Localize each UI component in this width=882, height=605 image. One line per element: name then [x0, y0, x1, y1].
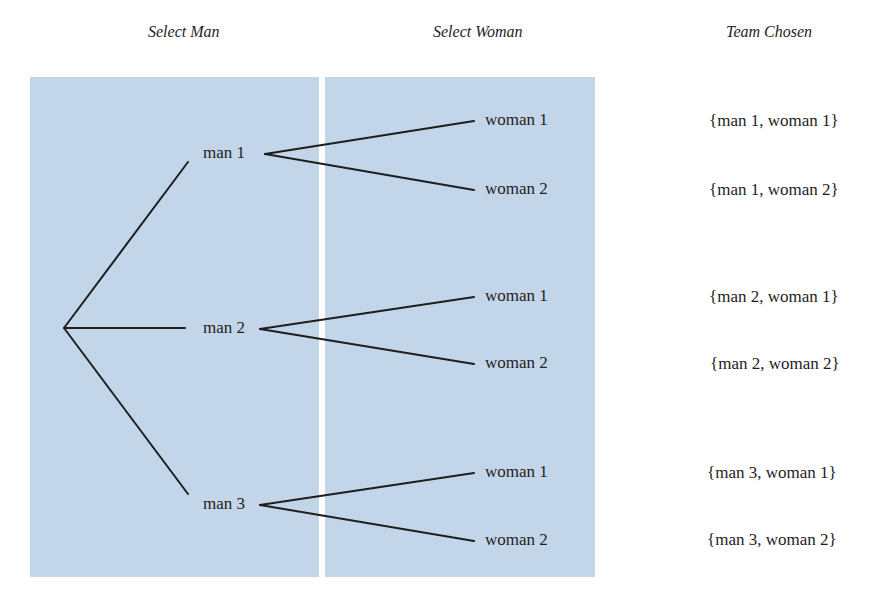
outcome-4: {man 2, woman 2} [710, 354, 840, 374]
node-man1-woman-1: woman 1 [485, 110, 548, 130]
outcome-2: {man 1, woman 2} [709, 180, 839, 200]
outcome-1: {man 1, woman 1} [709, 111, 839, 131]
node-man1-woman-2: woman 2 [485, 179, 548, 199]
node-man-1: man 1 [203, 143, 245, 163]
outcome-5: {man 3, woman 1} [707, 463, 837, 483]
node-man-2: man 2 [203, 318, 245, 338]
node-man-3: man 3 [203, 494, 245, 514]
node-man2-woman-2: woman 2 [485, 353, 548, 373]
node-man3-woman-2: woman 2 [485, 530, 548, 550]
node-man2-woman-1: woman 1 [485, 286, 548, 306]
outcome-6: {man 3, woman 2} [707, 530, 837, 550]
outcome-3: {man 2, woman 1} [709, 287, 839, 307]
node-man3-woman-1: woman 1 [485, 462, 548, 482]
